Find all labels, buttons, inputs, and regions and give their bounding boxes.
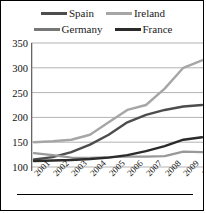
y-axis-tick-label: 100	[12, 162, 28, 173]
bottom-rule	[17, 194, 193, 195]
legend-swatch-france	[115, 28, 141, 31]
legend-label-france: France	[143, 24, 173, 35]
legend-label-germany: Germany	[62, 24, 103, 35]
legend-row-1: Spain Ireland	[1, 5, 204, 21]
legend-swatch-germany	[34, 28, 60, 31]
chart-frame: Spain Ireland Germany France 35030025020…	[0, 0, 204, 211]
legend-swatch-ireland	[106, 12, 132, 15]
legend-item-germany[interactable]: Germany	[34, 24, 103, 35]
y-axis-tick-label: 150	[12, 137, 28, 148]
legend-item-france[interactable]: France	[115, 24, 173, 35]
y-axis-tick-label: 250	[12, 87, 28, 98]
y-axis-tick-label: 200	[12, 112, 28, 123]
chart-legend: Spain Ireland Germany France	[1, 5, 204, 37]
y-axis-tick-label: 300	[12, 62, 28, 73]
legend-item-spain[interactable]: Spain	[41, 8, 94, 19]
legend-item-ireland[interactable]: Ireland	[106, 8, 165, 19]
plot-area	[31, 39, 204, 171]
x-axis-tick-labels: 2001200220032004200520062007200820092010	[31, 171, 204, 211]
legend-row-2: Germany France	[1, 21, 204, 37]
y-axis-tick-labels: 350300250200150100	[1, 39, 31, 169]
legend-swatch-spain	[41, 12, 67, 15]
y-axis-tick-label: 350	[12, 38, 28, 49]
legend-label-ireland: Ireland	[134, 8, 165, 19]
legend-label-spain: Spain	[69, 8, 94, 19]
series-line-spain[interactable]	[34, 105, 202, 160]
